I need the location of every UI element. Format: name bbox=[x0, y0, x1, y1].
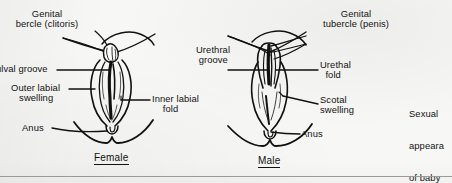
label-scotal-swelling: Scotal swelling bbox=[320, 95, 354, 116]
label-urethal-fold: Urethal fold bbox=[320, 60, 351, 81]
side-note-sexual-appearance: Sexual appeara of baby 3rd to month preg… bbox=[409, 88, 444, 183]
figure-canvas: Genital bercle (clitoris) ulval groove O… bbox=[0, 0, 452, 183]
label-vulval-groove: ulval groove bbox=[0, 64, 48, 74]
caption-male: Male bbox=[258, 155, 280, 168]
male-leader-lines bbox=[228, 36, 318, 134]
male-diagram bbox=[228, 31, 312, 146]
page-rule-divider bbox=[0, 176, 452, 177]
label-genital-tubercle-clitoris: Genital bercle (clitoris) bbox=[0, 9, 102, 30]
side-note-line: appeara bbox=[409, 141, 444, 152]
label-outer-labial-swelling: Outer labial swelling bbox=[11, 83, 60, 104]
label-anus-female: Anus bbox=[22, 123, 44, 133]
side-note-line: Sexual bbox=[409, 109, 444, 120]
female-diagram bbox=[63, 32, 155, 143]
female-leader-lines bbox=[52, 31, 150, 132]
label-anus-male: Anus bbox=[301, 129, 323, 139]
label-urethral-groove: Urethral groove bbox=[196, 45, 230, 66]
caption-female: Female bbox=[94, 152, 129, 165]
label-genital-tubercle-penis: Genital tubercle (penis) bbox=[300, 9, 412, 30]
label-inner-labial-fold: Inner labial fold bbox=[152, 94, 199, 115]
side-note-line: of baby bbox=[409, 173, 444, 183]
